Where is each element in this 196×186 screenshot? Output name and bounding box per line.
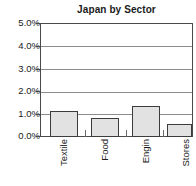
bars-group <box>40 23 193 137</box>
y-axis: 5.0% 4.0% 3.0% 2.0% 1.0% 0.0% <box>0 0 40 186</box>
y-tick-label-0: 0.0% <box>3 131 40 141</box>
chart-title: Japan by Sector <box>40 4 193 16</box>
y-tick-label-5: 5.0% <box>3 18 40 28</box>
y-tick-label-2: 2.0% <box>3 86 40 96</box>
x-separator-tick-3 <box>163 130 164 137</box>
y-tick-label-1: 1.0% <box>3 109 40 119</box>
y-tick-label-3: 3.0% <box>3 64 40 74</box>
bar-engin <box>132 106 160 137</box>
x-label-textile: Textile <box>57 139 71 185</box>
x-separator-tick-2 <box>126 130 127 137</box>
bar-food <box>91 118 119 137</box>
x-axis-labels: Textile Food Engin Stores <box>40 139 193 186</box>
bar-textile <box>50 111 78 137</box>
x-label-engin: Engin <box>139 139 153 185</box>
x-separator-tick-1 <box>85 130 86 137</box>
x-label-food: Food <box>98 139 112 185</box>
y-tick-label-4: 4.0% <box>3 41 40 51</box>
bar-chart: Japan by Sector 5.0% 4.0% 3.0% 2.0% 1.0%… <box>0 0 196 186</box>
bar-stores <box>167 124 192 137</box>
x-label-stores: Stores <box>179 139 193 185</box>
